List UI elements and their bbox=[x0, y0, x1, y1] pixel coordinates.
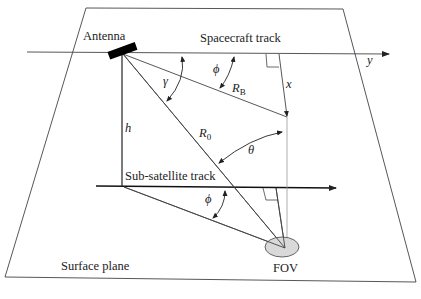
gamma-angle-arc bbox=[167, 57, 183, 101]
gamma-symbol: γ bbox=[163, 74, 169, 88]
r0-symbol: R0 bbox=[198, 126, 212, 142]
phi-bottom-angle-arc bbox=[213, 191, 225, 218]
rb-line bbox=[123, 54, 287, 117]
y-axis-symbol: y bbox=[365, 53, 373, 67]
phi-bottom-symbol: ϕ bbox=[205, 192, 212, 206]
spacecraft-track-line bbox=[27, 52, 389, 54]
surface-plane-outline bbox=[5, 8, 416, 282]
right-angle-marker-bottom bbox=[263, 188, 278, 200]
sub-satellite-track-label: Sub-satellite track bbox=[125, 169, 216, 183]
fov-label: FOV bbox=[273, 261, 298, 275]
theta-symbol: θ bbox=[248, 143, 254, 157]
x-symbol: x bbox=[285, 77, 292, 91]
rb-symbol: RB bbox=[231, 81, 246, 97]
phi-top-symbol: ϕ bbox=[213, 62, 220, 76]
sub-satellite-track-line bbox=[96, 186, 336, 188]
antenna-label: Antenna bbox=[83, 29, 126, 43]
right-angle-marker-top bbox=[266, 54, 279, 67]
spacecraft-track-label: Spacecraft track bbox=[200, 31, 282, 45]
h-symbol: h bbox=[125, 121, 131, 135]
surface-plane-label: Surface plane bbox=[61, 259, 130, 273]
geometry-diagram: Antenna Spacecraft track Sub-satellite t… bbox=[0, 0, 421, 299]
